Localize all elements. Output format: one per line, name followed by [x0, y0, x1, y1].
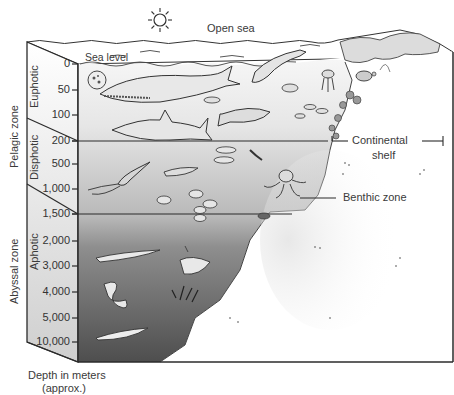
depth-tick-50: 50	[26, 84, 70, 95]
depth-tick-1500: 1,500	[26, 208, 70, 219]
depth-tick-100: 100	[26, 109, 70, 120]
abyssal-zone-label: Abyssal zone	[9, 239, 20, 304]
sun-icon	[148, 8, 172, 32]
depth-tick-2000: 2,000	[26, 235, 70, 246]
depth-tick-5000: 5,000	[26, 312, 70, 323]
depth-tick-1000: 1,000	[26, 183, 70, 194]
sea-level-label: Sea level	[85, 52, 128, 63]
crab-icon	[258, 213, 270, 219]
depth-tick-0: 0	[26, 58, 70, 69]
depth-tick-4000: 4,000	[26, 286, 70, 297]
benthic-zone-label: Benthic zone	[343, 192, 407, 203]
open-sea-label: Open sea	[207, 23, 255, 34]
depth-tick-10000: 10,000	[26, 336, 70, 347]
continental-shelf-label-line1: Continental	[352, 135, 408, 146]
depth-tick-500: 500	[26, 158, 70, 169]
depth-tick-200: 200	[26, 135, 70, 146]
pelagic-zone-label: Pelagic zone	[9, 105, 20, 168]
plankton-icon	[88, 71, 106, 89]
depth-caption-line2: (approx.)	[42, 383, 86, 394]
continental-shelf-label-line2: shelf	[372, 150, 395, 161]
depth-caption-line1: Depth in meters	[28, 370, 106, 381]
depth-tick-3000: 3,000	[26, 260, 70, 271]
